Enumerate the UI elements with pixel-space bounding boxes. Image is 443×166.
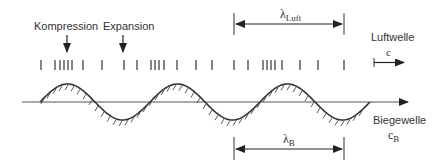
lambda-air-subscript: Luft (286, 13, 302, 23)
bending-speed-subscript: B (393, 134, 399, 144)
bending-wave-label: Biegewelle (373, 114, 426, 126)
lambda-bending-dimension: λB (234, 132, 344, 160)
bending-wave-curve (40, 84, 370, 126)
air-speed-label: c (386, 46, 391, 58)
svg-text:λLuft: λLuft (280, 7, 302, 23)
lambda-bending-subscript: B (289, 138, 295, 148)
air-pressure-ticks (41, 60, 344, 70)
lambda-air-dimension: λLuft (234, 7, 344, 35)
air-wave-direction-arrow-icon (374, 58, 404, 67)
compression-label: Kompression (34, 20, 98, 32)
air-wave-label: Luftwelle (371, 31, 414, 43)
air-bending-wave-diagram: Kompression Expansion λLuft Luftwelle c … (0, 0, 443, 166)
expansion-label: Expansion (103, 20, 154, 32)
svg-text:λB: λB (283, 132, 295, 148)
svg-text:cB: cB (388, 128, 399, 144)
